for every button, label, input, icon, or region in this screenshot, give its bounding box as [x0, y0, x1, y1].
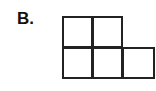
grid-cell [92, 47, 123, 79]
grid-cell [62, 16, 93, 48]
grid-cell [122, 47, 155, 79]
grid-cell [62, 47, 93, 79]
option-label: B. [17, 9, 34, 29]
grid-cell [92, 16, 123, 48]
